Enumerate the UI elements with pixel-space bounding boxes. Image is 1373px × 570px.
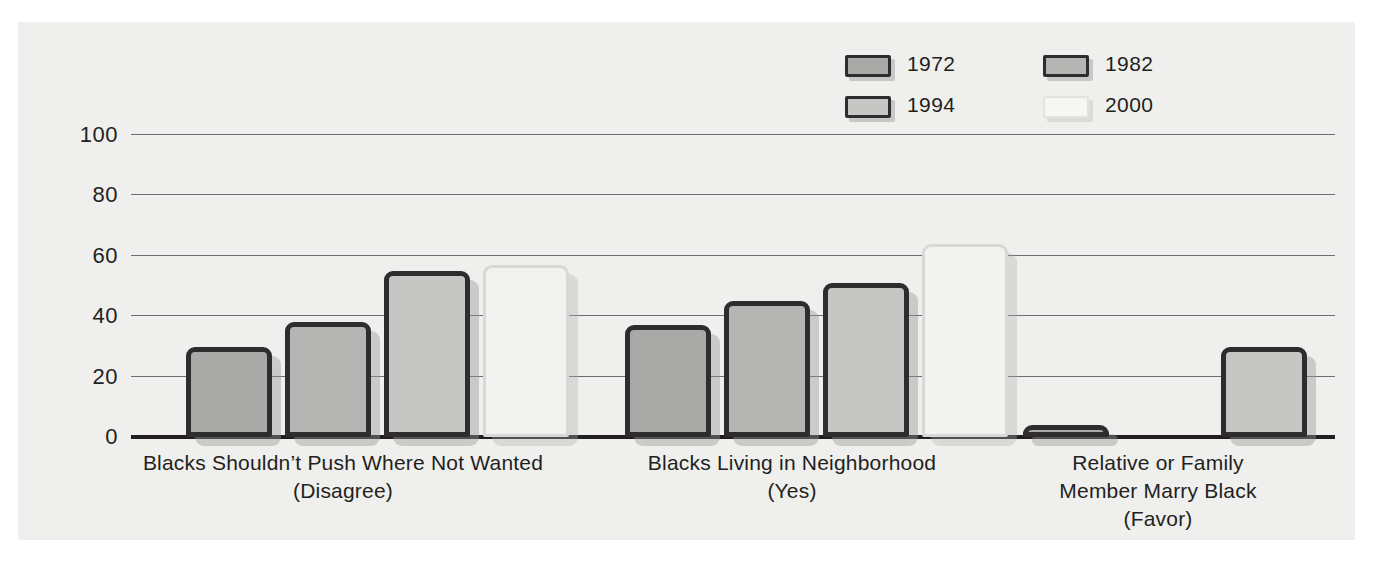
bar-body: [483, 265, 569, 437]
category-label-group-1-line-0: Blacks Living in Neighborhood: [622, 449, 962, 477]
category-label-group-1: Blacks Living in Neighborhood (Yes): [622, 449, 962, 505]
bar-body: [186, 347, 272, 437]
bar-1972-group-0[interactable]: [186, 347, 284, 447]
bar-body: [1023, 425, 1109, 437]
category-label-group-0-line-0: Blacks Shouldn’t Push Where Not Wanted: [128, 449, 558, 477]
chart-figure: 1972 1982 1994 2000: [0, 0, 1373, 570]
ytick-label-0: 0: [42, 424, 118, 450]
bar-2000-group-1[interactable]: [922, 244, 1020, 447]
ytick-label-80: 80: [42, 182, 118, 208]
bar-1972-group-1[interactable]: [625, 325, 723, 447]
category-label-group-2-line-1: Member Marry Black: [1013, 477, 1303, 505]
bar-1982-group-0[interactable]: [285, 322, 383, 447]
legend-swatch-1994-icon: [845, 96, 891, 118]
ytick-label-100: 100: [42, 122, 118, 148]
bar-2000-group-0[interactable]: [483, 265, 581, 447]
category-label-group-0: Blacks Shouldn’t Push Where Not Wanted (…: [128, 449, 558, 505]
plot-area: 100 80 60 40 20 0 Blacks Shouldn’t Push …: [0, 0, 1373, 570]
bar-1994-group-2[interactable]: [1221, 347, 1319, 447]
legend-swatch-1972-icon: [845, 55, 891, 77]
category-label-group-0-line-1: (Disagree): [128, 477, 558, 505]
ytick-label-60: 60: [42, 243, 118, 269]
category-label-group-2: Relative or Family Member Marry Black (F…: [1013, 449, 1303, 533]
ytick-label-20: 20: [42, 364, 118, 390]
gridline-80: [131, 194, 1335, 195]
bar-body: [724, 301, 810, 437]
category-label-group-2-line-2: (Favor): [1013, 505, 1303, 533]
bar-body: [285, 322, 371, 437]
bar-body: [384, 271, 470, 437]
bar-body: [823, 283, 909, 437]
bar-body: [625, 325, 711, 437]
category-label-group-2-line-0: Relative or Family: [1013, 449, 1303, 477]
legend-swatch-1982-icon: [1043, 55, 1089, 77]
bar-1982-group-1[interactable]: [724, 301, 822, 447]
bar-body: [1221, 347, 1307, 437]
category-label-group-1-line-1: (Yes): [622, 477, 962, 505]
gridline-100: [131, 134, 1335, 135]
bar-body: [922, 244, 1008, 437]
gridline-60: [131, 255, 1335, 256]
ytick-label-40: 40: [42, 303, 118, 329]
legend-swatch-2000-icon: [1043, 96, 1089, 118]
bar-1994-group-0[interactable]: [384, 271, 482, 447]
bar-1994-group-1[interactable]: [823, 283, 921, 447]
bar-1972-group-2[interactable]: [1023, 425, 1121, 447]
